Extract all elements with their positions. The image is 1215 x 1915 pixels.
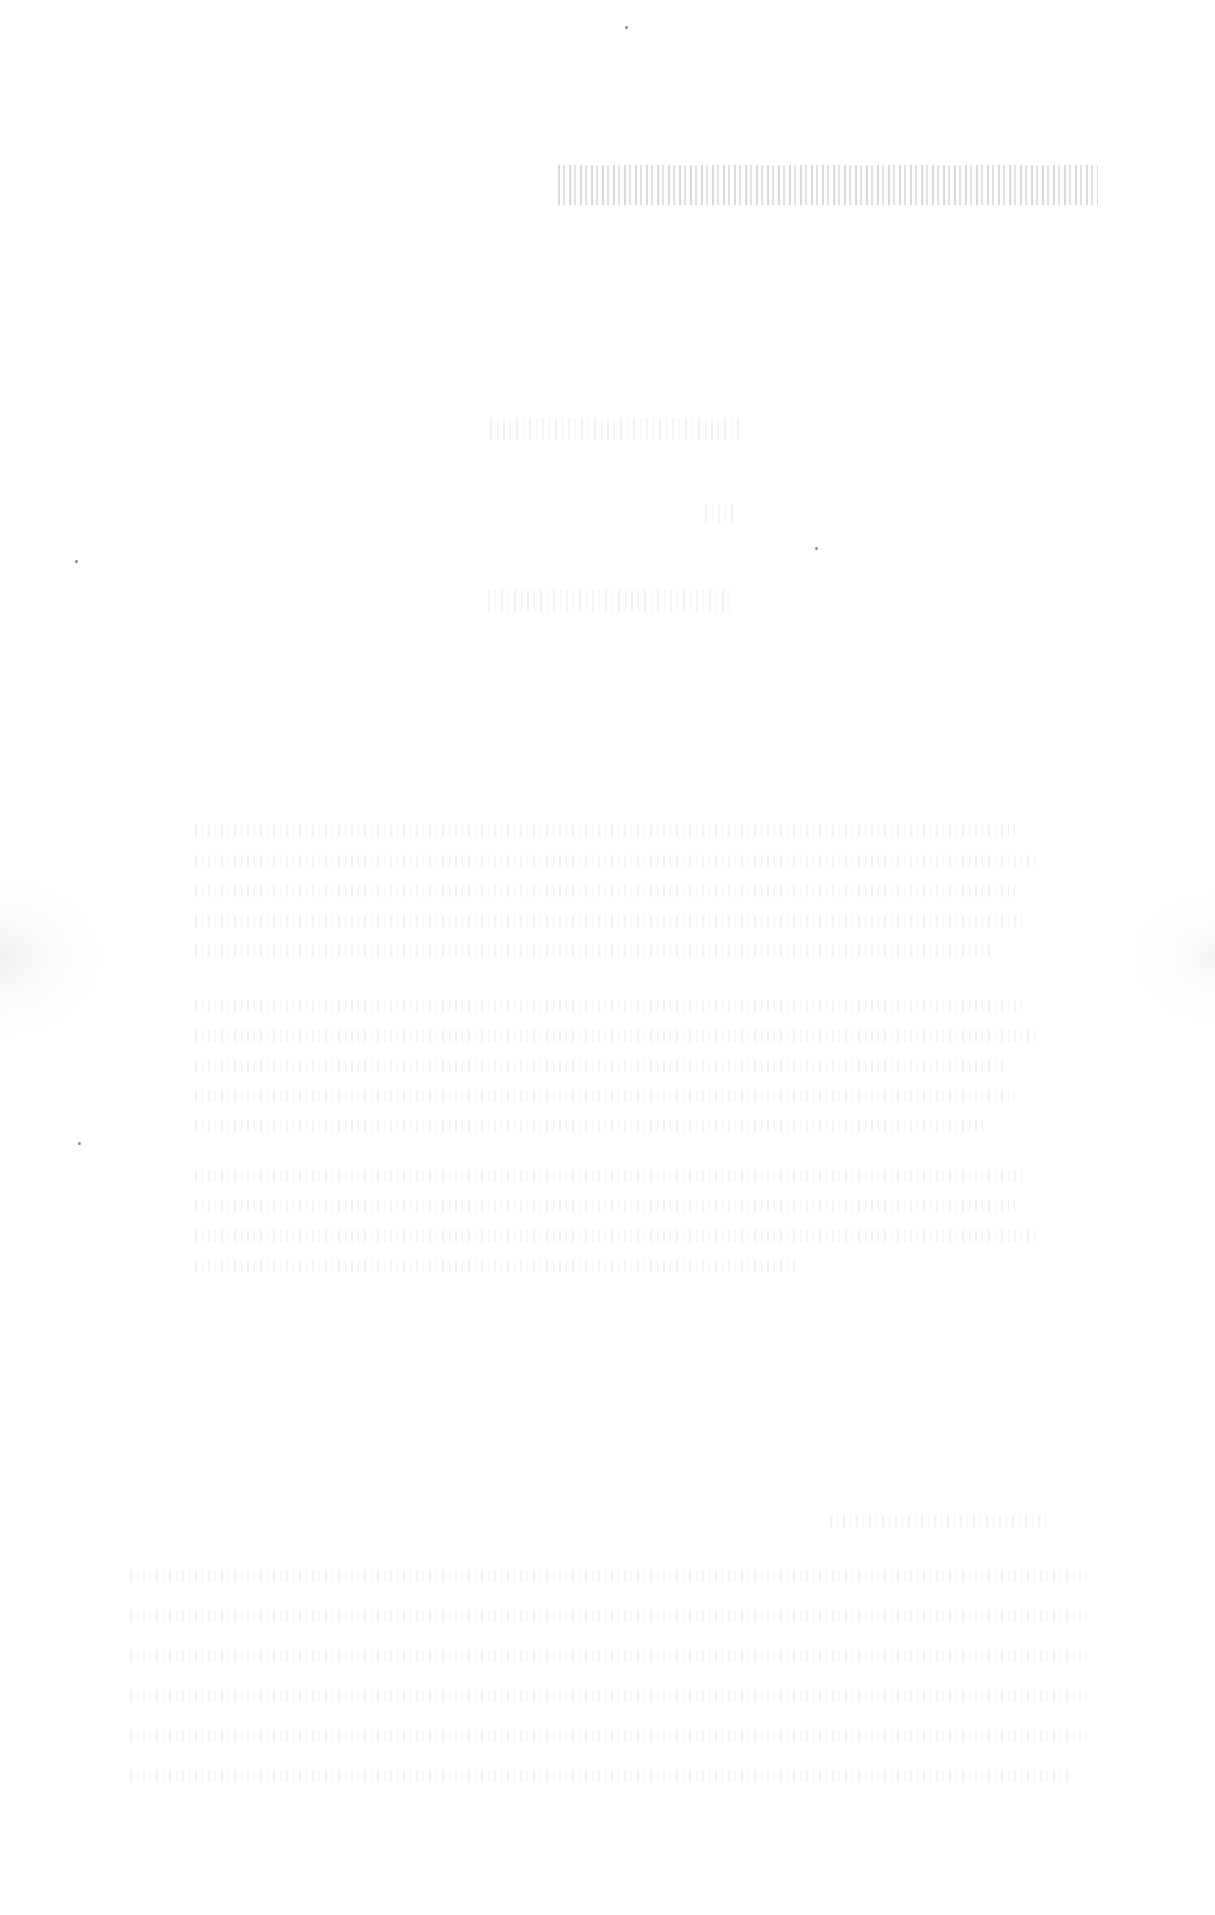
page-header: [illegible] <box>558 165 1098 205</box>
scan-speck <box>625 26 628 29</box>
title-line-3: [illegible] <box>488 590 733 612</box>
scan-speck <box>815 547 818 550</box>
scanned-page: [illegible] [illegible] [illegible] [ill… <box>0 0 1215 1915</box>
scan-speck <box>75 560 78 563</box>
scan-speck <box>78 1142 81 1145</box>
title-line-1: [illegible] <box>490 418 740 440</box>
title-line-2: [illegible] <box>705 505 735 523</box>
